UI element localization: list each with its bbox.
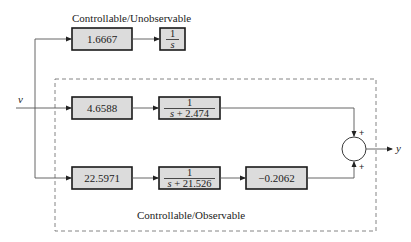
sum-sign-top: + (359, 128, 364, 138)
bottom-gain-block: 22.5971 (72, 167, 132, 189)
bottom-transfer-function-block: 1 s + 21.526 (159, 167, 220, 189)
summing-junction (342, 137, 366, 161)
sum-sign-bottom: + (359, 162, 364, 172)
middle-tf-denominator: s + 2.474 (170, 108, 210, 119)
bottom-output-wire (307, 162, 354, 178)
input-label: v (18, 93, 23, 105)
middle-output-wire (220, 108, 354, 136)
output-gain-value: −0.2062 (258, 172, 294, 184)
top-gain-value: 1.6667 (87, 33, 118, 45)
integrator-numerator: 1 (170, 28, 175, 39)
top-gain-block: 1.6667 (72, 28, 132, 50)
middle-tf-numerator: 1 (187, 97, 192, 108)
top-group-label: Controllable/Unobservable (72, 12, 191, 24)
bottom-group-label: Controllable/Observable (137, 209, 245, 221)
block-diagram: v Controllable/Unobservable 1.6667 1 s 4… (0, 0, 411, 242)
integrator-block: 1 s (160, 28, 185, 50)
bottom-tf-numerator: 1 (187, 167, 192, 178)
middle-gain-block: 4.6588 (72, 97, 132, 119)
bottom-tf-denominator: s + 21.526 (167, 178, 211, 189)
output-label: y (395, 142, 401, 154)
middle-gain-value: 4.6588 (87, 102, 118, 114)
bottom-gain-value: 22.5971 (84, 172, 120, 184)
output-gain-block: −0.2062 (246, 167, 307, 189)
middle-transfer-function-block: 1 s + 2.474 (159, 97, 220, 119)
integrator-denominator: s (170, 39, 174, 50)
